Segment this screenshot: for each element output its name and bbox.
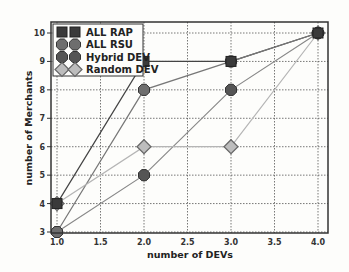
legend-label: Hybrid DEV [86, 52, 150, 63]
x-tick-label: 1.0 [50, 238, 65, 247]
x-tick-label: 1.5 [93, 238, 108, 247]
legend-label: ALL RSU [86, 39, 133, 50]
x-tick-label: 3.0 [224, 238, 239, 247]
y-tick-label: 3 [39, 228, 45, 237]
y-tick-label: 9 [39, 57, 45, 66]
data-point-marker [226, 56, 236, 66]
legend: ALL RAPALL RSUHybrid DEVRandom DEV [53, 24, 159, 77]
data-point-marker [52, 227, 63, 238]
data-point-marker [139, 170, 150, 181]
legend-label: Random DEV [86, 64, 159, 75]
line-chart: 1.01.52.02.53.03.54.0 345678910 number o… [0, 0, 349, 272]
legend-label: ALL RAP [86, 27, 133, 38]
x-tick-label: 2.5 [180, 238, 195, 247]
legend-marker-icon [57, 27, 67, 37]
data-point-marker [224, 140, 238, 154]
legend-marker-icon [70, 52, 81, 63]
data-point-marker [226, 84, 237, 95]
x-tick-label: 3.5 [267, 238, 282, 247]
data-point-marker [313, 28, 323, 38]
y-axis-label: number of Merchants [23, 70, 34, 185]
legend-marker-icon [70, 39, 81, 50]
y-tick-label: 8 [39, 86, 45, 95]
legend-marker-icon [57, 39, 68, 50]
data-point-marker [137, 140, 151, 154]
y-tick-label: 4 [39, 200, 45, 209]
y-tick-label: 10 [34, 29, 46, 38]
x-tick-label: 2.0 [137, 238, 152, 247]
x-axis-label: number of DEVs [147, 249, 233, 260]
y-axis-ticks: 345678910 [34, 29, 51, 237]
data-point-marker [52, 199, 62, 209]
y-tick-label: 7 [39, 114, 45, 123]
legend-marker-icon [70, 27, 80, 37]
y-tick-label: 6 [39, 143, 45, 152]
x-axis-ticks: 1.01.52.02.53.03.54.0 [50, 238, 326, 247]
legend-marker-icon [57, 52, 68, 63]
data-point-marker [139, 84, 150, 95]
y-tick-label: 5 [39, 171, 45, 180]
x-tick-label: 4.0 [311, 238, 326, 247]
